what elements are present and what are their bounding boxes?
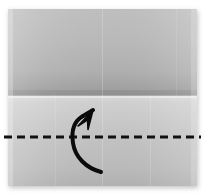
origami-diagram: [0, 0, 205, 195]
paper-sheet: [8, 9, 197, 186]
sheet-grain: [8, 9, 197, 186]
origami-diagram-canvas: A square sheet of gray paper seen from a…: [0, 0, 205, 195]
